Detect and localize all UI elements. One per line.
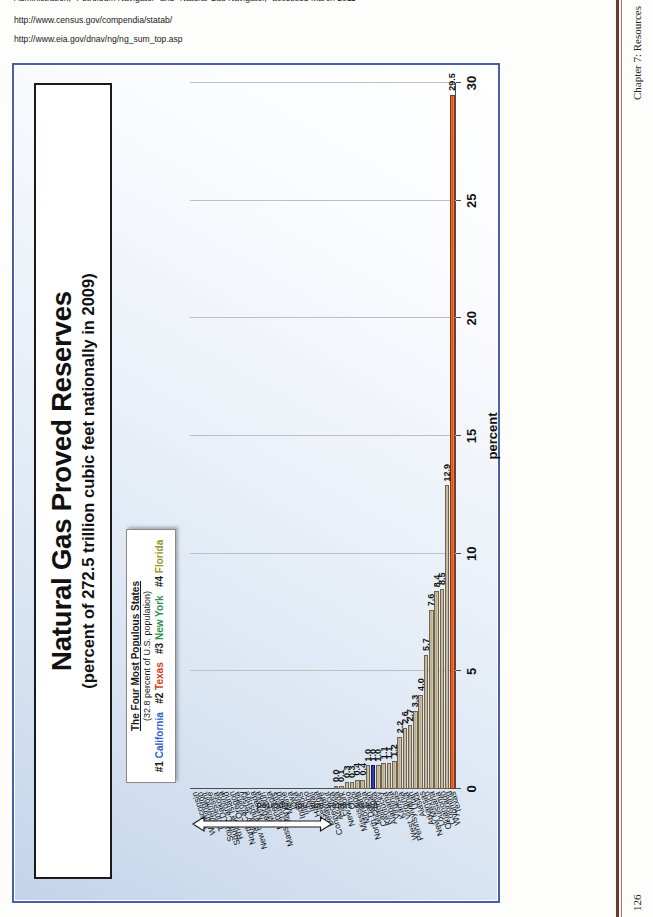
legend-state-california: California	[154, 712, 165, 758]
not-reported-annotation: these states are not reported	[257, 801, 378, 812]
bar-arkansas[interactable]	[418, 695, 423, 789]
x-tick-0	[456, 788, 461, 789]
bar-row: 2.7Utah	[408, 83, 413, 789]
bar-row: 1.1Alabama	[381, 83, 386, 789]
bar-pennsylvania[interactable]	[403, 728, 408, 789]
bar-row: Missouri	[260, 83, 265, 789]
bar-row: 2.6Pennsylvania	[403, 83, 408, 789]
legend-state-florida: Florida	[154, 540, 165, 573]
bar-utah[interactable]	[408, 725, 413, 789]
bar-kansas[interactable]	[392, 761, 397, 789]
slide-container: Natural Gas Proved Reserves (percent of …	[12, 63, 500, 903]
double-arrow-icon	[191, 815, 334, 833]
legend-entries: #1 California #2 Texas #3 New York #4 Fl…	[154, 530, 166, 782]
chapter-label: Chapter 7: Resources	[631, 6, 643, 100]
page-body: Natural Gas Proved Reserves (percent of …	[0, 0, 653, 917]
bar-ohio[interactable]	[345, 782, 350, 789]
x-tick-15	[456, 435, 461, 436]
bar-oklahoma[interactable]	[434, 591, 439, 789]
bar-row: Georgia	[313, 83, 318, 789]
bar-row: 8.5Colorado	[440, 83, 445, 789]
rotated-page-frame: Natural Gas Proved Reserves (percent of …	[0, 0, 653, 917]
bar-louisiana[interactable]	[429, 610, 434, 789]
bar-row: Rhode Island	[223, 83, 228, 789]
legend-box: The Four Most Populous States (32.8 perc…	[126, 529, 176, 783]
x-tick-label-15: 15	[464, 429, 479, 443]
bar-row: 8.4Oklahoma	[434, 83, 439, 789]
footnote-column: Proved reserves are estimated quantities…	[14, 5, 494, 51]
bar-row: Delaware	[318, 83, 323, 789]
bar-row: 1.0Michigan	[366, 83, 371, 789]
x-tick-label-0: 0	[464, 785, 479, 792]
x-tick-25	[456, 200, 461, 201]
bar-alaska[interactable]	[413, 711, 418, 789]
page-title: Natural Gas Proved Reserves	[48, 291, 77, 671]
footer-rule-thin	[621, 0, 622, 917]
bar-row: New Hampshire	[244, 83, 249, 789]
bar-row: 3.3Alaska	[413, 83, 418, 789]
x-tick-label-30: 30	[464, 76, 479, 90]
textbook-page: Natural Gas Proved Reserves (percent of …	[0, 0, 653, 917]
bar-row: Washington	[197, 83, 202, 789]
bar-row: South Dakota	[213, 83, 218, 789]
footnote-block: Proved reserves are estimated quantities…	[14, 0, 494, 51]
bar-row: 0.3Ohio	[345, 83, 350, 789]
bar-row: 1.0California	[371, 83, 376, 789]
page-number: 126	[631, 895, 643, 912]
bar-row: Iowa	[286, 83, 291, 789]
bar-row: 1.1Virginia	[387, 83, 392, 789]
bar-row: Illinois	[297, 83, 302, 789]
x-tick-5	[456, 670, 461, 671]
bar-florida[interactable]	[334, 786, 339, 789]
legend-rank-2: #2	[154, 693, 165, 704]
x-axis-title: percent	[485, 413, 500, 460]
bar-chart: percent 05101520253029.5Texas12.9Wyoming…	[190, 83, 486, 841]
bar-montana[interactable]	[355, 780, 360, 789]
bar-row: Connecticut	[323, 83, 328, 789]
bar-row: South Carolina	[218, 83, 223, 789]
bar-row: Maryland	[276, 83, 281, 789]
bar-new-york[interactable]	[339, 786, 344, 789]
bar-row: 7.6Louisiana	[429, 83, 434, 789]
x-tick-label-5: 5	[464, 668, 479, 675]
bar-row: Tennessee	[207, 83, 212, 789]
bar-virginia[interactable]	[387, 763, 392, 789]
slide-title-box: Natural Gas Proved Reserves (percent of …	[34, 83, 112, 879]
bar-row: North Carolina	[234, 83, 239, 789]
bar-row: 12.9Wyoming	[445, 83, 450, 789]
legend-state-texas: Texas	[154, 662, 165, 690]
x-tick-label-25: 25	[464, 193, 479, 207]
bar-row: Hawaii	[308, 83, 313, 789]
bar-row: 2.2West Virginia	[397, 83, 402, 789]
bar-mississippi[interactable]	[350, 782, 355, 789]
bar-row: 1.2Kansas	[392, 83, 397, 789]
bar-north-dakota[interactable]	[360, 780, 365, 789]
bar-row: Nevada	[249, 83, 254, 789]
bar-row: 0.4Montana	[355, 83, 360, 789]
bar-row: Nebraska	[255, 83, 260, 789]
bar-row: Massachusetts	[271, 83, 276, 789]
page-subtitle: (percent of 272.5 trillion cubic feet na…	[79, 273, 98, 688]
bar-row: Wisconsin	[191, 83, 196, 789]
bar-row: 0.4North Dakota	[360, 83, 365, 789]
bar-wyoming[interactable]	[445, 485, 450, 789]
legend-rank-3: #3	[154, 643, 165, 654]
x-tick-10	[456, 553, 461, 554]
bar-alabama[interactable]	[381, 763, 386, 789]
bar-row: New Jersey	[239, 83, 244, 789]
bar-new-mexico[interactable]	[424, 655, 429, 789]
bar-row: 4.0Arkansas	[418, 83, 423, 789]
bar-row: Vermont	[202, 83, 207, 789]
x-axis	[455, 83, 456, 789]
bar-texas[interactable]	[450, 95, 455, 789]
legend-rank-4: #4	[154, 576, 165, 587]
x-tick-label-20: 20	[464, 311, 479, 325]
bar-row: Minnesota	[265, 83, 270, 789]
legend-state-new-york: New York	[154, 595, 165, 640]
bar-california[interactable]	[371, 765, 376, 789]
bar-kentucky[interactable]	[376, 765, 381, 789]
source-url-eia[interactable]: http://www.eia.gov/dnav/ng/ng_sum_top.as…	[14, 33, 494, 45]
bar-colorado[interactable]	[440, 589, 445, 789]
source-url-census[interactable]: http://www.census.gov/compendia/statab/	[14, 14, 494, 26]
not-reported-bracket	[191, 815, 334, 833]
